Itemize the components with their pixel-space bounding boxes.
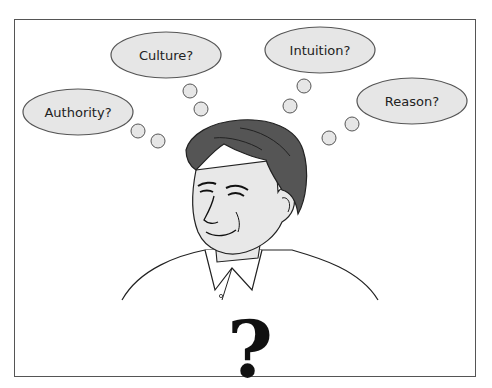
question-mark-icon: ? [227,311,273,388]
bubble-label-authority: Authority? [44,105,111,120]
bubble-label-culture: Culture? [139,48,193,63]
bubble-label-intuition: Intuition? [290,43,351,58]
thought-bubble-reason [322,78,467,145]
bubble-label-reason: Reason? [385,94,439,109]
